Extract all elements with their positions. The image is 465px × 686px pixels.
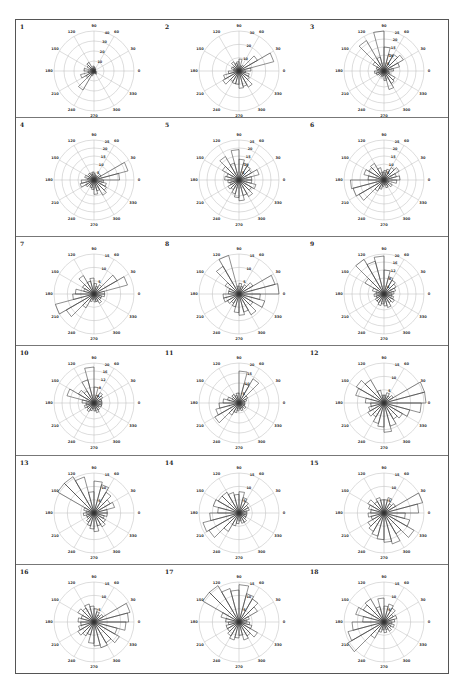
rose-diagram: 0306090120150180210240270300330510152025 (306, 20, 450, 118)
radial-label: 8 (99, 386, 102, 390)
grid-spoke (94, 71, 129, 91)
angle-label: 150 (51, 270, 59, 274)
radial-label: 5 (243, 499, 246, 503)
angle-label: 270 (380, 337, 388, 341)
angle-label: 210 (196, 92, 204, 96)
rose-diagram: 030609012015018021024027030033010203040 (16, 20, 160, 118)
rose-panel-18: 18030609012015018021024027030033051015 (306, 565, 450, 674)
angle-label: 150 (51, 598, 59, 602)
radial-label: 15 (105, 473, 110, 477)
angle-label: 330 (274, 92, 282, 96)
angle-label: 180 (45, 511, 53, 515)
radial-label: 10 (101, 267, 106, 271)
angle-label: 270 (235, 337, 243, 341)
angle-label: 210 (341, 315, 349, 319)
rose-diagram: 030609012015018021024027030033051015 (16, 456, 160, 565)
angle-label: 270 (90, 556, 98, 560)
angle-label: 90 (91, 247, 97, 251)
angle-label: 330 (274, 424, 282, 428)
angle-label: 0 (283, 178, 286, 182)
rose-petals (348, 598, 397, 652)
angle-label: 210 (51, 315, 59, 319)
rose-panel-13: 13030609012015018021024027030033051015 (16, 456, 160, 564)
angle-label: 0 (283, 620, 286, 624)
angle-label: 330 (419, 201, 427, 205)
angle-label: 300 (258, 331, 266, 335)
angle-label: 120 (213, 581, 221, 585)
angle-label: 30 (130, 379, 136, 383)
radial-label: 40 (105, 31, 110, 35)
angle-label: 120 (68, 581, 76, 585)
angle-label: 30 (130, 270, 136, 274)
rose-diagram: 030609012015018021024027030033048121620 (306, 237, 450, 346)
angle-label: 60 (114, 139, 120, 143)
angle-label: 90 (236, 575, 242, 579)
angle-label: 0 (428, 511, 431, 515)
angle-label: 300 (113, 108, 121, 112)
angle-label: 30 (420, 47, 426, 51)
angle-label: 90 (381, 356, 387, 360)
radial-label: 30 (102, 40, 107, 44)
angle-label: 240 (213, 440, 221, 444)
angle-label: 120 (213, 30, 221, 34)
rose-diagram: 030609012015018021024027030033051015 (161, 456, 305, 565)
radial-label: 10 (391, 486, 396, 490)
angle-label: 180 (335, 401, 343, 405)
angle-label: 60 (404, 472, 410, 476)
angle-label: 0 (283, 292, 286, 296)
angle-label: 240 (213, 331, 221, 335)
radial-label: 15 (395, 473, 400, 477)
angle-label: 180 (190, 620, 198, 624)
radial-label: 15 (101, 155, 106, 159)
radial-label: 20 (395, 254, 400, 258)
angle-label: 30 (275, 270, 281, 274)
angle-label: 240 (213, 550, 221, 554)
angle-label: 330 (419, 424, 427, 428)
angle-label: 240 (358, 217, 366, 221)
radial-label: 5 (243, 280, 246, 284)
radial-label: 15 (250, 582, 255, 586)
angle-label: 150 (341, 270, 349, 274)
rose-diagram: 0306090120150180210240270300330102030 (161, 20, 305, 118)
angle-label: 120 (358, 139, 366, 143)
radial-label: 16 (103, 370, 108, 374)
angle-label: 90 (91, 356, 97, 360)
angle-label: 90 (381, 247, 387, 251)
rose-diagram: 030609012015018021024027030033051015 (306, 565, 450, 674)
angle-label: 120 (68, 139, 76, 143)
angle-label: 90 (91, 24, 97, 28)
rose-panel-10: 1003060901201501802102402703003304812162… (16, 346, 160, 455)
rose-petals (78, 603, 130, 647)
angle-label: 30 (275, 379, 281, 383)
angle-label: 210 (196, 201, 204, 205)
angle-label: 90 (381, 24, 387, 28)
angle-label: 180 (190, 401, 198, 405)
angle-label: 300 (403, 550, 411, 554)
angle-label: 30 (420, 379, 426, 383)
angle-label: 210 (51, 643, 59, 647)
radial-label: 15 (246, 155, 251, 159)
angle-label: 0 (283, 69, 286, 73)
angle-label: 60 (404, 581, 410, 585)
figure-row: 1603060901201501802102402703003305101517… (16, 565, 448, 674)
rose-panel-12: 12030609012015018021024027030033051015 (306, 346, 450, 455)
angle-label: 330 (274, 534, 282, 538)
radial-label: 12 (391, 269, 396, 273)
radial-label: 25 (250, 140, 255, 144)
angle-label: 90 (236, 24, 242, 28)
angle-label: 240 (213, 659, 221, 663)
rose-panel-16: 16030609012015018021024027030033051015 (16, 565, 160, 674)
angle-label: 300 (113, 550, 121, 554)
angle-label: 150 (196, 156, 204, 160)
angle-label: 30 (130, 47, 136, 51)
radial-label: 10 (391, 595, 396, 599)
rose-diagram: 0306090120150180210240270300330510152025 (16, 118, 160, 237)
radial-label: 20 (248, 147, 253, 151)
radial-label: 25 (395, 140, 400, 144)
rose-panel-2: 20306090120150180210240270300330102030 (161, 20, 305, 117)
angle-label: 210 (196, 424, 204, 428)
angle-label: 150 (196, 270, 204, 274)
rose-diagram: 030609012015018021024027030033051015 (306, 456, 450, 565)
angle-label: 330 (129, 424, 137, 428)
angle-label: 330 (129, 534, 137, 538)
